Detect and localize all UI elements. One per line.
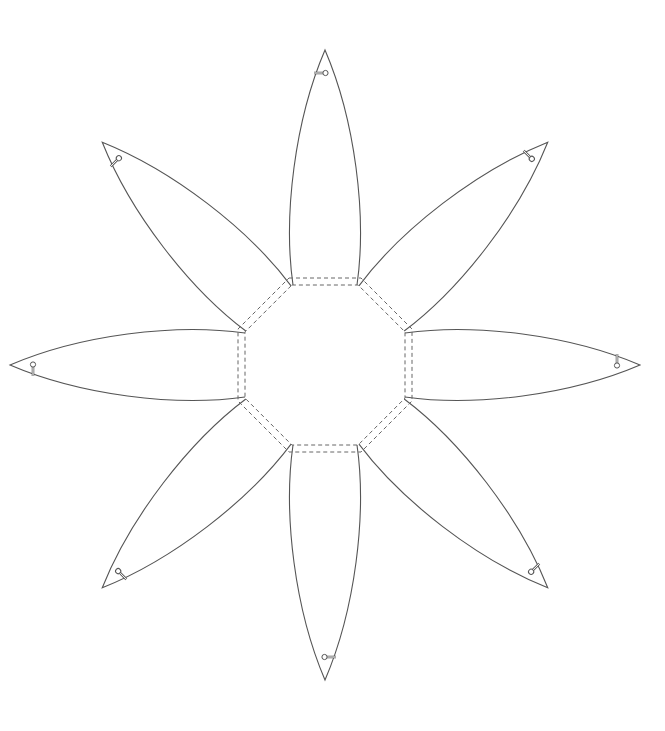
petal-top	[290, 50, 361, 285]
petal-outline	[290, 445, 361, 680]
pin-hole-icon	[322, 654, 327, 659]
petal-right	[405, 330, 640, 401]
petal-outline	[77, 396, 293, 612]
petal-outline	[290, 50, 361, 285]
petal-outline	[356, 117, 572, 333]
petal-top-right	[356, 117, 572, 333]
petal-left	[10, 330, 245, 401]
petal-bottom-right	[356, 396, 572, 612]
pin-hole-icon	[30, 362, 35, 367]
petal-top-left	[77, 117, 293, 333]
petal-outline	[356, 396, 572, 612]
petal-outline	[405, 330, 640, 401]
petal-outline	[77, 117, 293, 333]
petals-group	[10, 50, 640, 680]
petal-bottom-left	[77, 396, 293, 612]
petal-bottom	[290, 445, 361, 680]
flower-template-diagram	[0, 0, 665, 731]
pin-hole-icon	[614, 363, 619, 368]
octagon-inner-fold-line	[245, 285, 405, 445]
petal-outline	[10, 330, 245, 401]
pin-hole-icon	[323, 70, 328, 75]
